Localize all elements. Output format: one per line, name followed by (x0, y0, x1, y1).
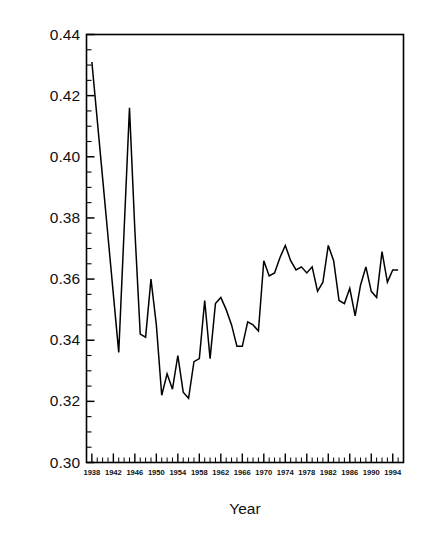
x-tick-label: 1990 (363, 468, 380, 477)
x-tick-label: 1982 (320, 468, 337, 477)
x-tick-label: 1994 (384, 468, 401, 477)
x-tick-label: 1950 (148, 468, 165, 477)
y-tick-label: 0.38 (24, 210, 80, 226)
y-tick-label: 0.40 (24, 149, 80, 165)
y-tick-label: 0.44 (24, 27, 80, 43)
x-axis-tick-labels: 1938194219461950195419581962196619701974… (0, 468, 427, 484)
x-axis-major-ticks (92, 454, 393, 463)
x-tick-label: 1946 (126, 468, 143, 477)
x-tick-label: 1974 (277, 468, 294, 477)
y-tick-label: 0.34 (24, 332, 80, 348)
x-tick-label: 1958 (191, 468, 208, 477)
x-tick-label: 1986 (341, 468, 358, 477)
x-tick-label: 1962 (212, 468, 229, 477)
data-series-line (92, 62, 398, 398)
plot-border (87, 35, 404, 463)
x-tick-label: 1938 (83, 468, 100, 477)
x-tick-label: 1966 (234, 468, 251, 477)
x-tick-label: 1978 (298, 468, 315, 477)
x-tick-label: 1942 (105, 468, 122, 477)
y-tick-label: 0.32 (24, 393, 80, 409)
x-tick-label: 1970 (255, 468, 272, 477)
x-axis-title: Year (86, 500, 404, 518)
x-tick-label: 1954 (169, 468, 186, 477)
y-tick-label: 0.36 (24, 271, 80, 287)
y-tick-label: 0.42 (24, 88, 80, 104)
chart-figure: 0.440.420.400.380.360.340.320.30 1938194… (0, 0, 427, 534)
y-axis-tick-labels: 0.440.420.400.380.360.340.320.30 (22, 0, 80, 534)
